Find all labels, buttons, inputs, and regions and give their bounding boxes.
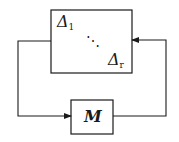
diagonal-dots: ⋱ — [86, 34, 100, 48]
m-label: M — [84, 109, 102, 125]
left-feedback-line — [18, 41, 71, 116]
delta-r-label: Δr — [108, 52, 124, 68]
delta-1-label: Δ1 — [57, 14, 74, 30]
diagram-canvas: Δ1 ⋱ Δr M — [0, 0, 179, 142]
